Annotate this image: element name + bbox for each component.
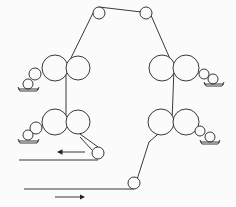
roller-right-lower-1 — [148, 109, 174, 135]
roller-right-upper-2 — [173, 55, 199, 81]
roller-right-upper-small-1 — [199, 69, 209, 79]
roller-left-upper-small-1 — [29, 68, 41, 80]
roller-left-upper-2 — [66, 56, 90, 80]
roller-diagram — [0, 0, 236, 207]
web-path — [24, 7, 174, 189]
roller-exit-roller — [92, 147, 104, 159]
roller-right-lower-small-1 — [195, 126, 205, 136]
diagram-canvas — [0, 0, 236, 207]
roller-left-lower-2 — [66, 110, 90, 134]
roller-left-upper-1 — [42, 55, 68, 81]
rollers — [23, 7, 218, 189]
roller-top-right — [140, 7, 152, 19]
roller-top-left — [93, 7, 105, 19]
roller-left-lower-1 — [42, 109, 68, 135]
roller-left-upper-small-2 — [23, 79, 33, 89]
roller-right-upper-1 — [149, 55, 175, 81]
roller-left-lower-small-2 — [23, 130, 33, 140]
web-segment — [80, 137, 92, 150]
roller-right-lower-small-2 — [205, 132, 215, 142]
roller-right-upper-small-2 — [208, 74, 218, 84]
roller-entry-roller — [128, 177, 140, 189]
